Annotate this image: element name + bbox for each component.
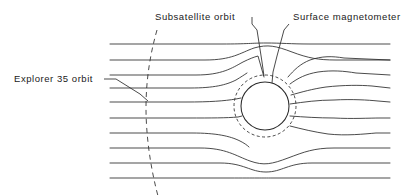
explorer-35-orbit-path xyxy=(146,30,158,196)
field-line-3 xyxy=(290,100,390,104)
field-line-0 xyxy=(110,43,390,44)
magnetometer-leader-line xyxy=(272,24,289,83)
field-line-6 xyxy=(110,133,249,147)
field-line-2 xyxy=(291,85,390,95)
magnetic-field-lines-right xyxy=(288,57,390,135)
lunar-field-line-figure: Subsatellite orbit Surface magnetometer … xyxy=(0,0,420,196)
explorer-leader-line xyxy=(104,79,148,101)
diagram-canvas xyxy=(0,0,420,196)
field-line-4 xyxy=(110,98,241,102)
field-line-7 xyxy=(110,148,390,164)
subsatellite-orbit-label: Subsatellite orbit xyxy=(155,12,235,22)
field-line-2 xyxy=(110,56,264,77)
surface-magnetometer-label: Surface magnetometer xyxy=(293,12,401,22)
explorer-35-orbit-label: Explorer 35 orbit xyxy=(14,74,93,84)
field-line-1 xyxy=(290,71,390,84)
field-line-5 xyxy=(110,116,242,118)
field-line-5 xyxy=(290,126,390,135)
moon-body xyxy=(241,82,289,130)
field-line-4 xyxy=(290,116,390,118)
